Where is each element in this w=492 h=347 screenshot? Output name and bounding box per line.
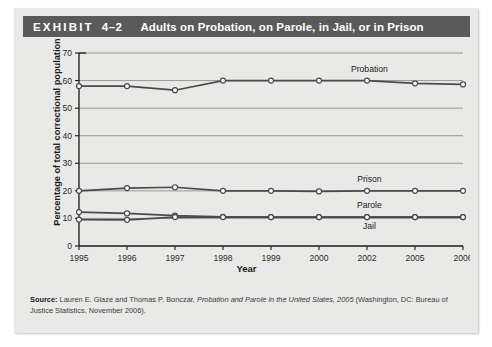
- x-axis-title: Year: [23, 263, 470, 274]
- data-point: [125, 217, 130, 222]
- x-tick-label: 1999: [261, 253, 280, 263]
- y-tick-label: 60: [62, 76, 72, 86]
- data-point: [269, 188, 274, 193]
- data-point: [461, 82, 466, 87]
- data-point: [125, 211, 130, 216]
- data-point: [365, 78, 370, 83]
- data-point: [77, 188, 82, 193]
- data-point: [461, 188, 466, 193]
- data-point: [221, 215, 226, 220]
- exhibit-header-bar: EXHIBIT 4–2 Adults on Probation, on Paro…: [23, 16, 470, 37]
- exhibit-label: EXHIBIT: [33, 21, 94, 33]
- y-tick-label: 20: [62, 186, 72, 196]
- source-label: Source:: [30, 295, 58, 304]
- x-tick-label: 2002: [357, 253, 376, 263]
- data-point: [317, 78, 322, 83]
- x-tick-label: 2005: [405, 253, 424, 263]
- data-point: [77, 217, 82, 222]
- series-label-parole: Parole: [357, 200, 382, 210]
- x-tick-label: 1997: [165, 253, 184, 263]
- y-tick-label: 70: [62, 48, 72, 58]
- data-point: [413, 215, 418, 220]
- exhibit-number: 4–2: [102, 21, 123, 33]
- y-tick-label: 10: [62, 213, 72, 223]
- exhibit-title: Adults on Probation, on Parole, in Jail,…: [140, 21, 423, 33]
- x-tick-label: 1998: [213, 253, 232, 263]
- y-tick-label: 40: [62, 131, 72, 141]
- data-point: [173, 185, 178, 190]
- y-tick-label: 50: [62, 103, 72, 113]
- data-point: [173, 215, 178, 220]
- chart-region: Percentage of total correctional populat…: [23, 41, 470, 286]
- data-point: [317, 189, 322, 194]
- series-label-probation: Probation: [351, 64, 388, 74]
- data-point: [365, 215, 370, 220]
- x-tick-label: 1995: [69, 253, 88, 263]
- data-point: [269, 78, 274, 83]
- x-tick-label: 2000: [309, 253, 328, 263]
- data-point: [317, 215, 322, 220]
- data-point: [125, 186, 130, 191]
- line-chart: 0102030405060701995199619971998199920002…: [23, 41, 470, 286]
- data-point: [77, 84, 82, 89]
- data-point: [221, 188, 226, 193]
- source-text-before: Lauren E. Glaze and Thomas P. Bonczar,: [58, 295, 197, 304]
- data-point: [221, 78, 226, 83]
- x-tick-label: 1996: [117, 253, 136, 263]
- series-label-prison: Prison: [357, 174, 382, 184]
- data-point: [461, 215, 466, 220]
- source-note: Source: Lauren E. Glaze and Thomas P. Bo…: [30, 295, 460, 316]
- x-tick-label: 2006: [453, 253, 470, 263]
- data-point: [413, 81, 418, 86]
- exhibit-card: EXHIBIT 4–2 Adults on Probation, on Paro…: [14, 8, 478, 333]
- series-label-jail: Jail: [363, 221, 376, 231]
- source-title-italic: Probation and Parole in the United State…: [197, 295, 354, 304]
- y-tick-label: 0: [67, 241, 72, 251]
- data-point: [125, 84, 130, 89]
- data-point: [365, 188, 370, 193]
- data-point: [77, 210, 82, 215]
- y-tick-label: 30: [62, 158, 72, 168]
- data-point: [269, 215, 274, 220]
- data-point: [173, 88, 178, 93]
- data-point: [413, 188, 418, 193]
